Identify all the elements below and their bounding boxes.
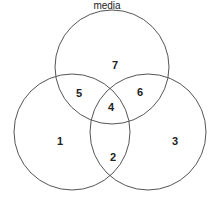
region-label-7: 7 <box>112 59 118 71</box>
region-label-3: 3 <box>172 135 178 147</box>
region-label-2: 2 <box>110 151 116 163</box>
region-label-1: 1 <box>57 135 63 147</box>
circle-left <box>14 74 130 190</box>
region-label-4: 4 <box>108 101 114 113</box>
circle-right <box>90 74 206 190</box>
venn-diagram: media 1 2 3 4 5 6 7 <box>0 0 214 213</box>
region-label-5: 5 <box>76 87 82 99</box>
region-label-6: 6 <box>137 86 143 98</box>
